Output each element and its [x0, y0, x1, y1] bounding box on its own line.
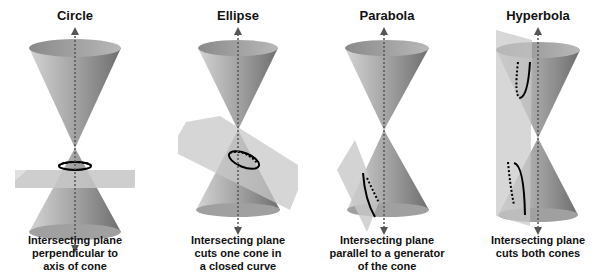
panel-caption: Intersecting plane perpendicular to axis…: [5, 234, 145, 273]
panel-caption: Intersecting plane parallel to a generat…: [317, 234, 457, 273]
panel-caption: Intersecting plane cuts both cones: [468, 234, 603, 260]
caption-line: perpendicular to: [5, 247, 145, 260]
caption-line: cuts both cones: [468, 247, 603, 260]
panel-circle: Circle Intersecting plane perpendicular …: [15, 0, 135, 280]
caption-line: a closed curve: [168, 260, 308, 273]
panel-parabola: Parabola Intersecting plane parallel to …: [327, 0, 447, 280]
caption-line: Intersecting plane: [168, 234, 308, 247]
caption-line: Intersecting plane: [317, 234, 457, 247]
panel-caption: Intersecting plane cuts one cone in a cl…: [168, 234, 308, 273]
caption-line: Intersecting plane: [5, 234, 145, 247]
caption-line: cuts one cone in: [168, 247, 308, 260]
caption-line: Intersecting plane: [468, 234, 603, 247]
panel-hyperbola: Hyperbola Intersecting plane cuts both c…: [478, 0, 598, 280]
caption-line: of the cone: [317, 260, 457, 273]
caption-line: parallel to a generator: [317, 247, 457, 260]
panel-ellipse: Ellipse Intersecting plane cuts one cone…: [178, 0, 298, 280]
caption-line: axis of cone: [5, 260, 145, 273]
